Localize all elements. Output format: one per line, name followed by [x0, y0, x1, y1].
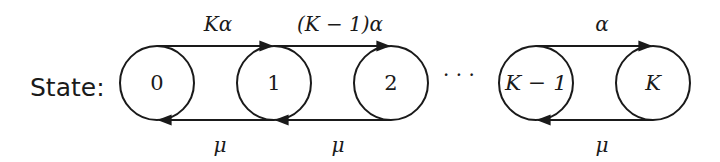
- rate-label-k-alpha: Kα: [203, 12, 233, 36]
- ellipsis: · · ·: [443, 63, 475, 87]
- backward-edge-k-k-1: μ: [538, 120, 653, 157]
- forward-edge-0-1: Kα: [157, 12, 272, 46]
- forward-edge-k-1-k: α: [536, 12, 651, 46]
- state-node-label: K: [644, 71, 662, 95]
- state-node-label: 0: [150, 71, 163, 95]
- rate-label-mu: μ: [332, 133, 345, 157]
- state-node-k: K: [616, 46, 690, 120]
- birth-death-diagram: State: Kα (K − 1)α α μ μ μ 0 1 2 · · ·: [0, 0, 720, 162]
- state-node-k-minus-1: K − 1: [499, 46, 573, 120]
- rate-label-alpha: α: [595, 12, 609, 36]
- backward-edge-2-1: μ: [276, 120, 391, 157]
- forward-edge-1-2: (K − 1)α: [274, 12, 389, 46]
- state-row-label: State:: [30, 73, 105, 102]
- backward-edge-1-0: μ: [159, 120, 274, 157]
- state-node-label: K − 1: [504, 71, 567, 95]
- rate-label-mu: μ: [596, 133, 609, 157]
- state-node-0: 0: [120, 46, 194, 120]
- rate-label-k-minus-1-alpha: (K − 1)α: [297, 12, 384, 36]
- rate-label-mu: μ: [214, 133, 227, 157]
- state-node-1: 1: [237, 46, 311, 120]
- state-node-label: 2: [384, 71, 397, 95]
- state-node-2: 2: [354, 46, 428, 120]
- state-node-label: 1: [267, 71, 280, 95]
